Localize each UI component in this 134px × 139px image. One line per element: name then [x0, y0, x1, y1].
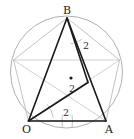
pentagon-edge-OL1 — [14, 60, 29, 121]
vertex-label-O: O — [22, 124, 31, 135]
measure-label-side-OA: 2 — [63, 108, 69, 118]
pentagon-edge-group — [14, 18, 120, 121]
geometry-figure: B A O 2 2 2 — [0, 0, 134, 139]
pentagon-diagonal-group — [14, 18, 120, 121]
measure-label-side-BA: 2 — [83, 41, 89, 51]
vertex-label-A: A — [105, 124, 113, 135]
vertex-label-B: B — [63, 5, 71, 16]
segment-O-inner — [29, 83, 89, 122]
center-dot — [69, 76, 72, 79]
measure-label-inner-segment: 2 — [69, 84, 75, 94]
highlight-segment-group — [29, 18, 107, 121]
geometry-canvas — [0, 0, 134, 139]
pentagon-edge-R1A — [106, 60, 120, 121]
